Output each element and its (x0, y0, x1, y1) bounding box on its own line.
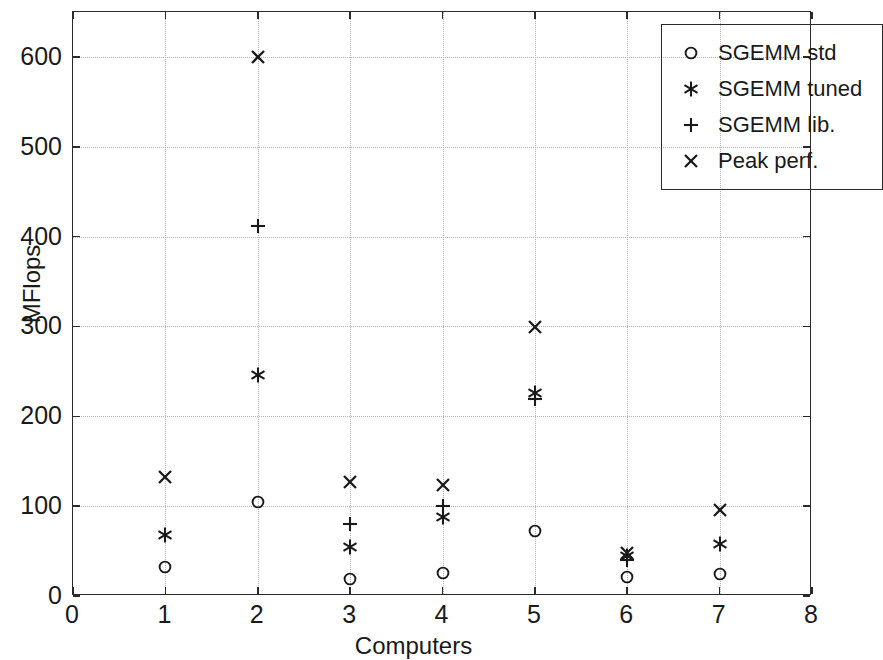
data-point-asterisk-icon (432, 506, 454, 528)
y-axis-tick (73, 416, 80, 418)
x-axis-tick (719, 12, 721, 19)
x-axis-tick (349, 587, 351, 594)
gridline-vertical (350, 12, 351, 594)
data-point-asterisk-icon (524, 382, 546, 404)
data-point-plus-icon (524, 388, 546, 410)
y-axis-tick (803, 595, 810, 597)
y-axis-tick (73, 595, 80, 597)
y-axis-tick-label: 600 (20, 41, 62, 70)
x-axis-tick (72, 587, 74, 594)
legend-item-label: SGEMM lib. (718, 112, 835, 138)
x-axis-tick (442, 12, 444, 19)
legend-item-label: SGEMM tuned (718, 76, 862, 102)
data-point-plus-icon (616, 549, 638, 571)
legend-asterisk-icon (674, 76, 708, 102)
x-axis-tick (72, 12, 74, 19)
y-axis-tick (803, 505, 810, 507)
x-axis-tick-label: 0 (65, 600, 79, 629)
x-axis-tick-label: 6 (619, 600, 633, 629)
data-point-x-icon (247, 46, 269, 68)
x-axis-tick (165, 12, 167, 19)
chart-legend: SGEMM stdSGEMM tunedSGEMM lib.Peak perf. (661, 24, 883, 190)
y-axis-tick (73, 56, 80, 58)
data-point-circle-icon (247, 491, 269, 513)
legend-item-label: Peak perf. (718, 148, 818, 174)
legend-circle-icon (674, 40, 708, 66)
y-axis-tick (803, 326, 810, 328)
x-axis-tick (719, 587, 721, 594)
x-axis-tick (257, 587, 259, 594)
x-axis-tick-labels: 012345678 (72, 600, 811, 634)
data-point-x-icon (524, 316, 546, 338)
y-axis-tick (73, 146, 80, 148)
y-axis-tick (73, 505, 80, 507)
x-axis-tick-label: 3 (342, 600, 356, 629)
x-axis-tick-label: 2 (250, 600, 264, 629)
x-axis-tick (442, 587, 444, 594)
data-point-x-icon (432, 474, 454, 496)
legend-plus-icon (674, 112, 708, 138)
x-axis-tick (257, 12, 259, 19)
data-point-asterisk-icon (616, 545, 638, 567)
legend-item[interactable]: Peak perf. (662, 143, 882, 179)
y-axis-tick-label: 0 (48, 581, 62, 610)
data-point-x-icon (339, 471, 361, 493)
x-axis-tick (534, 587, 536, 594)
data-point-x-icon (709, 499, 731, 521)
x-axis-tick-label: 8 (804, 600, 818, 629)
gridline-vertical (165, 12, 166, 594)
gridline-horizontal (73, 416, 810, 417)
x-axis-tick-label: 4 (435, 600, 449, 629)
data-point-x-icon (616, 542, 638, 564)
x-axis-tick-label: 7 (712, 600, 726, 629)
data-point-asterisk-icon (339, 536, 361, 558)
data-point-x-icon (154, 466, 176, 488)
y-axis-tick (73, 326, 80, 328)
x-axis-tick (626, 587, 628, 594)
legend-item-label: SGEMM std (718, 40, 837, 66)
y-axis-tick (803, 416, 810, 418)
data-point-asterisk-icon (247, 364, 269, 386)
x-axis-tick (811, 12, 813, 19)
gridline-horizontal (73, 237, 810, 238)
legend-item[interactable]: SGEMM tuned (662, 71, 882, 107)
x-axis-tick (165, 587, 167, 594)
legend-item[interactable]: SGEMM lib. (662, 107, 882, 143)
gridline-vertical (258, 12, 259, 594)
x-axis-tick-label: 5 (527, 600, 541, 629)
gridline-horizontal (73, 326, 810, 327)
data-point-plus-icon (432, 495, 454, 517)
gridline-vertical (443, 12, 444, 594)
y-axis-tick-label: 100 (20, 491, 62, 520)
x-axis-tick (534, 12, 536, 19)
y-axis-title: MFlops (18, 204, 46, 364)
data-point-circle-icon (616, 566, 638, 588)
data-point-plus-icon (339, 513, 361, 535)
gridline-horizontal (73, 506, 810, 507)
x-axis-tick-label: 1 (157, 600, 171, 629)
x-axis-tick (811, 587, 813, 594)
y-axis-tick-label: 200 (20, 401, 62, 430)
x-axis-tick (626, 12, 628, 19)
y-axis-tick (803, 236, 810, 238)
legend-item[interactable]: SGEMM std (662, 35, 882, 71)
data-point-asterisk-icon (709, 533, 731, 555)
data-point-asterisk-icon (154, 524, 176, 546)
data-point-plus-icon (247, 215, 269, 237)
data-point-circle-icon (154, 556, 176, 578)
plot-area: SGEMM stdSGEMM tunedSGEMM lib.Peak perf. (72, 11, 811, 595)
y-axis-tick-label: 500 (20, 131, 62, 160)
gridline-vertical (535, 12, 536, 594)
data-point-circle-icon (709, 563, 731, 585)
x-axis-tick (349, 12, 351, 19)
y-axis-tick (73, 236, 80, 238)
gridline-vertical (627, 12, 628, 594)
x-axis-title: Computers (0, 632, 827, 660)
legend-x-icon (674, 148, 708, 174)
data-point-circle-icon (524, 520, 546, 542)
data-point-circle-icon (432, 562, 454, 584)
